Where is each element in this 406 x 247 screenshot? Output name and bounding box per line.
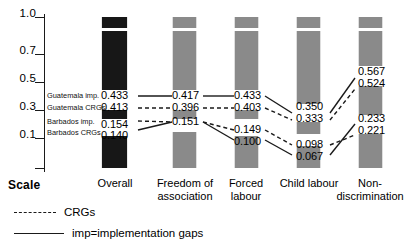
category-label-nondiscrimination: Non- discrimination [334,177,406,202]
value-forced-barbados-imp: 0.100 [234,136,261,147]
value-nondiscrimination-guatemala-crgs: 0.524 [358,78,385,89]
y-tick-label-4: 0.3 [8,101,36,113]
y-tick-mark-5 [35,138,44,139]
bar-body-nondiscrimination-lower [358,134,383,168]
bar-body-nondiscrimination-upper [358,31,383,66]
y-tick-mark-1 [35,17,44,18]
scale-axis-title: Scale [8,178,40,192]
category-label-freedom-line1: Freedom of [148,177,222,190]
bar-cap-forced [234,17,259,28]
y-axis-line [44,14,45,172]
value-forced-guatemala-imp: 0.433 [234,90,261,101]
value-freedom-guatemala-crgs: 0.396 [172,102,199,113]
value-freedom-barbados: 0.151 [172,116,199,127]
bar-cap-overall [101,17,128,28]
category-label-overall: Overall [78,177,152,190]
legend-label-crgs: CRGs [64,206,95,218]
y-tick-label-5: 0.1 [8,129,36,141]
value-child-guatemala-imp: 0.350 [296,101,323,112]
bar-body-freedom-upper [172,31,197,90]
value-child-barbados-imp: 0.067 [296,151,323,162]
value-overall-guatemala-crgs: 0.413 [101,102,128,113]
y-tick-mark-2 [35,54,44,55]
legend-label-imp: imp=implementation gaps [72,227,203,239]
legend-solid-line-swatch [14,233,64,234]
value-forced-barbados-crgs: 0.149 [234,124,261,135]
category-label-freedom-line2: association [148,190,222,203]
value-child-barbados-crgs: 0.098 [296,139,323,150]
value-nondiscrimination-barbados-imp: 0.233 [358,113,385,124]
value-overall-guatemala-imp: 0.433 [101,90,128,101]
row-label-guatemala-crgs: Guatemala CRGs [47,104,109,112]
category-label-nondiscrimination-line1: Non- [334,177,406,190]
bar-cap-nondiscrimination [358,17,383,28]
category-label-forced-line1: Forced [213,177,279,190]
category-label-forced-line2: labour [213,190,279,203]
value-overall-barbados-crgs: 0.140 [101,130,128,141]
value-nondiscrimination-guatemala-imp: 0.567 [358,66,385,77]
row-label-guatemala-imp: Guatemala imp. [47,92,109,100]
bar-body-nondiscrimination-mid [358,86,383,115]
value-freedom-guatemala-imp: 0.417 [172,90,199,101]
bar-body-child-upper [296,31,321,104]
bar-cap-child [296,17,321,28]
y-tick-label-3: 0.5 [8,73,36,85]
chart-container: 1.0 0.7 0.5 0.3 0.1 [0,0,406,247]
y-tick-label-1: 1.0 [8,8,36,20]
bar-body-overall-upper [101,31,128,90]
value-child-guatemala-crgs: 0.333 [296,113,323,124]
bar-body-forced-upper [234,31,259,90]
y-tick-mark-6 [35,168,44,169]
category-label-overall-line1: Overall [78,177,152,190]
y-tick-mark-3 [35,82,44,83]
row-label-barbados-imp: Barbados imp. [47,118,109,126]
bar-body-freedom-lower [172,132,197,168]
bar-cap-freedom [172,17,197,28]
category-label-freedom: Freedom of association [148,177,222,202]
category-label-nondiscrimination-line2: discrimination [334,190,406,203]
value-nondiscrimination-barbados-crgs: 0.221 [358,125,385,136]
y-tick-label-2: 0.7 [8,45,36,57]
category-label-forced: Forced labour [213,177,279,202]
row-label-barbados-crgs: Barbados CRGs [47,129,109,137]
value-forced-guatemala-crgs: 0.403 [234,102,261,113]
y-tick-mark-4 [35,110,44,111]
legend-dashed-line-swatch [14,212,56,213]
